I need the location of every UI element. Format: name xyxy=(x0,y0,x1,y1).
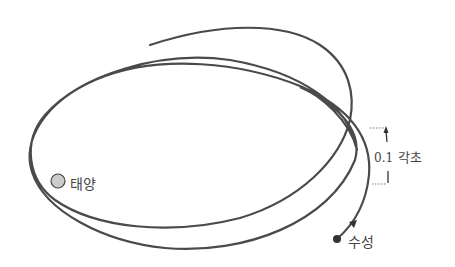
mercury-dot xyxy=(333,235,341,243)
precession-value: 0.1 xyxy=(374,151,393,165)
precession-unit: 각초 xyxy=(398,150,422,165)
measure-arrow-up-icon xyxy=(384,126,389,133)
orbit-diagram xyxy=(0,0,455,267)
mercury-label: 수성 xyxy=(348,231,374,251)
precession-label: 0.1각초 xyxy=(374,147,422,166)
sun-circle xyxy=(51,174,65,188)
sun-label: 태양 xyxy=(70,173,96,193)
orbit-path xyxy=(30,28,370,249)
